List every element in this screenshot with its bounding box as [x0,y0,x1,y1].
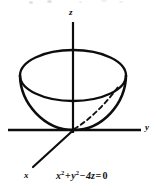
equation-operator-minus: − [79,170,86,181]
equation-term-4z: 4z [86,170,95,181]
paraboloid-figure: z y x x2+y2−4z=0 [0,0,156,195]
x-axis-label: x [24,171,29,180]
y-axis-label: y [145,123,149,132]
x-axis-line [33,130,74,167]
coordinate-diagram-canvas [0,0,156,195]
figure-equation-caption: x2+y2−4z=0 [56,171,108,181]
z-axis-label: z [69,8,73,17]
equation-rhs-zero: 0 [102,170,108,181]
equation-operator-equals: = [95,170,102,181]
